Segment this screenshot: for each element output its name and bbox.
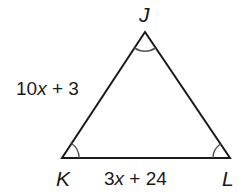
side-label-jk: 10x + 3 <box>16 78 79 99</box>
vertex-label-j: J <box>138 3 150 26</box>
vertex-label-k: K <box>56 167 71 190</box>
angle-mark-j <box>135 48 156 51</box>
angle-mark-k <box>72 144 80 159</box>
vertex-label-l: L <box>222 167 234 190</box>
angle-mark-l <box>213 144 221 158</box>
triangle-diagram: J K L 10x + 3 3x + 24 <box>0 0 249 193</box>
side-label-kl: 3x + 24 <box>104 168 167 189</box>
